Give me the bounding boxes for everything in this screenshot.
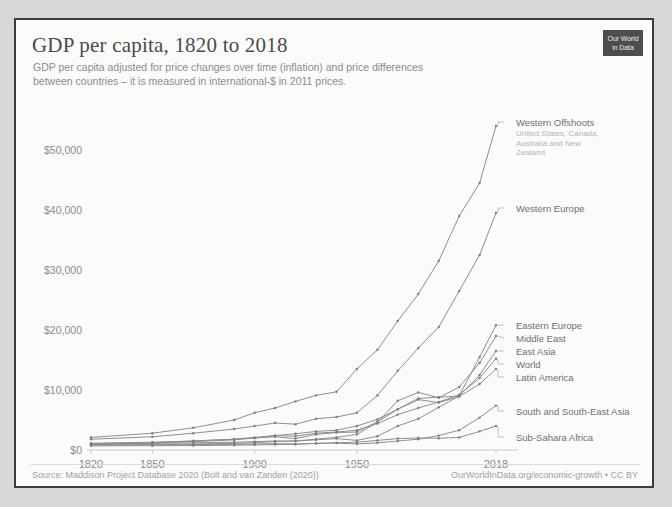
data-point [274, 422, 276, 424]
data-point [356, 441, 358, 443]
legend-leader-line [498, 359, 504, 364]
data-point [376, 435, 378, 437]
data-point [335, 442, 337, 444]
data-point [478, 416, 480, 418]
legend-leader-line [498, 406, 504, 411]
series-line-middle-east [91, 336, 496, 444]
data-point [495, 425, 497, 427]
data-point [397, 425, 399, 427]
data-point [315, 439, 317, 441]
data-point [192, 444, 194, 446]
data-point [397, 413, 399, 415]
data-point [417, 437, 419, 439]
legend-label-sub-sahara-africa[interactable]: Sub-Sahara Africa [516, 432, 594, 443]
data-point [478, 254, 480, 256]
data-point [335, 416, 337, 418]
chart-plot-area: $0$10,000$20,000$30,000$40,000$50,000182… [16, 20, 652, 486]
data-point [478, 377, 480, 379]
data-point [458, 290, 460, 292]
data-point [192, 432, 194, 434]
data-point [356, 425, 358, 427]
data-point [438, 437, 440, 439]
data-point [294, 433, 296, 435]
source-note: Source: Maddison Project Database 2020 (… [32, 470, 319, 480]
data-point [274, 434, 276, 436]
series-line-western-europe [91, 213, 496, 439]
data-point [356, 412, 358, 414]
y-axis-tick-label: $50,000 [44, 144, 82, 156]
data-point [192, 427, 194, 429]
data-point [356, 429, 358, 431]
legend-leader-line [498, 336, 504, 338]
legend-leader-line [498, 369, 504, 377]
data-point [151, 436, 153, 438]
data-point [376, 418, 378, 420]
series-line-world [91, 359, 496, 444]
data-point [458, 395, 460, 397]
legend-label-south-and-south-east-asia[interactable]: South and South-East Asia [516, 406, 630, 417]
credit-note[interactable]: OurWorldInData.org/economic-growth • CC … [451, 470, 638, 480]
data-point [294, 437, 296, 439]
legend-label-east-asia[interactable]: East Asia [516, 346, 556, 357]
data-point [376, 422, 378, 424]
data-point [253, 412, 255, 414]
data-point [90, 445, 92, 447]
data-point [151, 445, 153, 447]
chart-card: GDP per capita, 1820 to 2018 GDP per cap… [14, 18, 654, 488]
data-point [253, 425, 255, 427]
data-point [233, 439, 235, 441]
legend-label-western-offshoots[interactable]: Western Offshoots [516, 117, 595, 128]
data-point [274, 440, 276, 442]
series-line-south-and-south-east-asia [91, 406, 496, 446]
data-point [335, 391, 337, 393]
data-point [438, 406, 440, 408]
data-point [376, 442, 378, 444]
data-point [458, 436, 460, 438]
data-point [294, 423, 296, 425]
data-point [495, 324, 497, 326]
data-point [315, 442, 317, 444]
data-point [376, 394, 378, 396]
data-point [458, 215, 460, 217]
legend-leader-line [498, 426, 504, 437]
data-point [495, 368, 497, 370]
data-point [417, 418, 419, 420]
legend-leader-line [498, 122, 504, 126]
data-point [495, 125, 497, 127]
data-point [294, 400, 296, 402]
data-point [294, 440, 296, 442]
legend-label-middle-east[interactable]: Middle East [516, 333, 566, 344]
data-point [478, 430, 480, 432]
data-point [417, 347, 419, 349]
data-point [253, 444, 255, 446]
data-point [233, 444, 235, 446]
data-point [458, 386, 460, 388]
data-point [478, 374, 480, 376]
data-point [274, 407, 276, 409]
y-axis-tick-label: $10,000 [44, 384, 82, 396]
data-point [335, 429, 337, 431]
y-axis-tick-label: $30,000 [44, 264, 82, 276]
data-point [495, 350, 497, 352]
data-point [151, 442, 153, 444]
legend-label-western-europe[interactable]: Western Europe [516, 203, 584, 214]
legend-label-latin-america[interactable]: Latin America [516, 372, 574, 383]
data-point [90, 438, 92, 440]
data-point [376, 439, 378, 441]
data-point [397, 370, 399, 372]
data-point [438, 397, 440, 399]
data-point [315, 418, 317, 420]
y-axis-tick-label: $20,000 [44, 324, 82, 336]
legend-label-eastern-europe[interactable]: Eastern Europe [516, 320, 582, 331]
data-point [253, 437, 255, 439]
legend-label-world[interactable]: World [516, 359, 541, 370]
legend-leader-line [498, 208, 504, 213]
series-line-eastern-europe [91, 325, 496, 443]
data-point [397, 437, 399, 439]
data-point [315, 430, 317, 432]
data-point [417, 391, 419, 393]
data-point [397, 320, 399, 322]
data-point [495, 358, 497, 360]
y-axis-tick-label: $40,000 [44, 204, 82, 216]
data-point [356, 368, 358, 370]
